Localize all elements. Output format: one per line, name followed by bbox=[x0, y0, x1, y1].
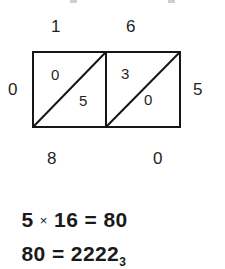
lattice-left-label: 0 bbox=[8, 81, 17, 98]
lattice-cell-1-upper-digit: 3 bbox=[121, 66, 129, 81]
lattice-cell-1-lower-digit: 0 bbox=[144, 92, 152, 107]
clipped-text-strip bbox=[0, 0, 225, 6]
lattice-cell-0-lower-digit: 5 bbox=[79, 93, 87, 108]
lattice-grid-svg bbox=[32, 51, 181, 128]
equation-base-conversion: 80 = 22223 bbox=[9, 218, 126, 269]
equation-base-subscript: 3 bbox=[119, 255, 126, 269]
lattice-cell-0-upper-digit: 0 bbox=[51, 67, 59, 82]
equation-base-equals: = bbox=[52, 242, 65, 265]
lattice-bottom-label-0: 8 bbox=[47, 150, 56, 167]
lattice-top-label-0: 1 bbox=[51, 18, 60, 35]
clipped-glyph-mark bbox=[70, 0, 77, 3]
lattice-grid bbox=[32, 51, 181, 128]
lattice-top-label-1: 6 bbox=[126, 18, 135, 35]
equation-base-left: 80 bbox=[21, 242, 45, 265]
lattice-right-label: 5 bbox=[193, 81, 202, 98]
equation-base-digits: 2222 bbox=[71, 242, 119, 265]
clipped-glyph-mark bbox=[168, 0, 175, 3]
lattice-bottom-label-1: 0 bbox=[153, 150, 162, 167]
